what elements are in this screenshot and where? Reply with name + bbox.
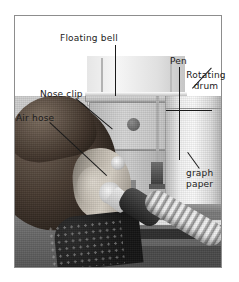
label-rotating-drum-line1: Rotating <box>186 70 225 80</box>
leader-line-floating-bell <box>115 45 116 96</box>
label-pen: Pen <box>170 56 187 67</box>
bell-guide-rod-left <box>101 58 103 96</box>
clothing-pattern <box>47 218 125 267</box>
label-air-hose: Air hose <box>16 113 54 124</box>
label-graph-paper-line2: paper <box>186 179 213 189</box>
nose-clip-device <box>111 156 125 170</box>
rotating-drum <box>165 96 221 213</box>
label-rotating-drum-line2: drum <box>194 81 219 91</box>
leader-line-rotating-drum-horizontal <box>166 110 212 111</box>
label-floating-bell: Floating bell <box>60 33 118 44</box>
pen-arm <box>149 184 165 189</box>
drum-graph-paper-edge <box>165 108 221 109</box>
label-graph-paper-line1: graph <box>186 168 213 178</box>
spirometer-knob <box>127 118 140 131</box>
figure-container: Floating bell Pen Rotating drum Nose cli… <box>0 0 239 282</box>
label-rotating-drum: Rotating drum <box>180 70 232 92</box>
label-nose-clip: Nose clip <box>40 89 83 100</box>
pen-carriage <box>151 162 163 184</box>
label-graph-paper: graph paper <box>186 168 226 190</box>
